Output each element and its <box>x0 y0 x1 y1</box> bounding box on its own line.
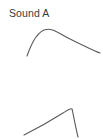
sound-a-waveform-curve <box>0 0 103 70</box>
sound-a-envelope-path <box>27 29 100 56</box>
sound-b-waveform-curve <box>0 70 103 139</box>
sound-b-envelope-path <box>24 109 78 137</box>
sound-envelope-figure: Sound A Sound B <box>0 0 103 139</box>
